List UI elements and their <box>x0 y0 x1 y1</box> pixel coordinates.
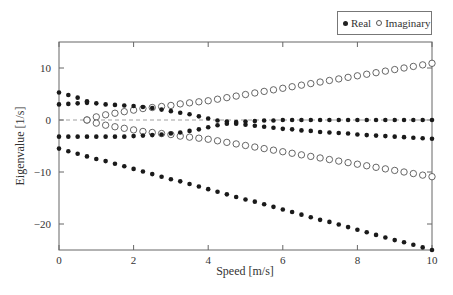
x-tick-label: 2 <box>131 254 137 266</box>
real-point <box>262 118 267 123</box>
legend: Real Imaginary <box>337 11 432 35</box>
real-point <box>197 127 202 132</box>
real-point <box>299 212 304 217</box>
real-point <box>346 118 351 123</box>
imaginary-point <box>308 153 314 159</box>
real-point <box>169 131 174 136</box>
real-point <box>187 112 192 117</box>
real-point <box>392 118 397 123</box>
real-point <box>336 118 341 123</box>
imaginary-point <box>354 73 360 79</box>
real-point <box>318 118 323 123</box>
legend-imaginary-label: Imaginary <box>385 17 430 29</box>
real-point <box>206 187 211 192</box>
imaginary-point <box>270 147 276 153</box>
imaginary-point <box>336 158 342 164</box>
real-point <box>308 118 313 123</box>
imaginary-point <box>242 142 248 148</box>
real-point <box>430 136 435 141</box>
real-point <box>430 118 435 123</box>
imaginary-point <box>242 91 248 97</box>
real-point <box>103 159 108 164</box>
imaginary-point <box>214 138 220 144</box>
real-point <box>281 127 286 132</box>
real-point <box>85 101 90 106</box>
y-tick-label: −10 <box>34 166 52 178</box>
imaginary-point <box>280 85 286 91</box>
real-point <box>113 103 118 108</box>
real-point <box>75 101 80 106</box>
real-point <box>178 110 183 115</box>
imaginary-point <box>401 65 407 71</box>
real-point <box>159 107 164 112</box>
real-point <box>197 114 202 119</box>
real-point <box>308 215 313 220</box>
real-point <box>253 123 258 128</box>
real-point <box>253 199 258 204</box>
real-point <box>215 118 220 123</box>
real-point <box>355 118 360 123</box>
x-tick-label: 0 <box>56 254 62 266</box>
real-point <box>169 177 174 182</box>
imaginary-point <box>419 172 425 178</box>
real-point <box>66 93 71 98</box>
real-point <box>94 134 99 139</box>
imaginary-point <box>168 102 174 108</box>
imaginary-point <box>373 69 379 75</box>
imaginary-point <box>392 66 398 72</box>
real-point <box>308 129 313 134</box>
imaginary-point <box>317 155 323 161</box>
imaginary-point <box>205 136 211 142</box>
imaginary-point <box>102 122 108 128</box>
real-point <box>392 134 397 139</box>
y-tick-label: −20 <box>34 218 52 230</box>
real-point <box>159 132 164 137</box>
imaginary-point <box>382 166 388 172</box>
x-tick-label: 8 <box>355 254 361 266</box>
real-point <box>420 136 425 141</box>
real-point <box>187 129 192 134</box>
real-point <box>420 245 425 250</box>
real-point <box>122 134 127 139</box>
real-point <box>141 105 146 110</box>
real-point <box>225 192 230 197</box>
real-point <box>374 133 379 138</box>
real-point <box>85 134 90 139</box>
imaginary-point <box>186 100 192 106</box>
real-point <box>281 118 286 123</box>
real-point <box>131 167 136 172</box>
imaginary-point <box>364 71 370 77</box>
real-point <box>75 134 80 139</box>
imaginary-point <box>112 110 118 116</box>
imaginary-point <box>261 145 267 151</box>
real-point <box>57 102 62 107</box>
real-point <box>411 243 416 248</box>
real-point <box>281 207 286 212</box>
real-point <box>206 125 211 130</box>
imaginary-point <box>429 60 435 66</box>
real-point <box>75 152 80 157</box>
real-point <box>262 202 267 207</box>
imaginary-point <box>102 112 108 118</box>
real-point <box>290 118 295 123</box>
imaginary-point <box>410 170 416 176</box>
imaginary-point <box>270 87 276 93</box>
real-point <box>327 118 332 123</box>
real-point <box>234 121 239 126</box>
imaginary-point <box>289 150 295 156</box>
real-point <box>103 134 108 139</box>
real-point <box>113 161 118 166</box>
imaginary-point <box>354 161 360 167</box>
x-tick-label: 4 <box>205 254 211 266</box>
real-point <box>141 169 146 174</box>
real-point <box>346 225 351 230</box>
imaginary-point <box>419 62 425 68</box>
imaginary-point <box>93 114 99 120</box>
real-point <box>290 210 295 215</box>
imaginary-point <box>317 79 323 85</box>
real-point <box>392 238 397 243</box>
x-tick-label: 6 <box>280 254 286 266</box>
imaginary-point <box>298 82 304 88</box>
imaginary-point <box>261 88 267 94</box>
real-point <box>411 118 416 123</box>
